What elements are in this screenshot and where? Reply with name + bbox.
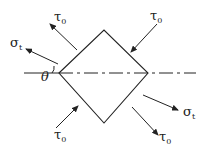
tau-bottom-right-arrow xyxy=(132,107,158,135)
sigma-right-label: σt xyxy=(183,104,196,121)
tau-bottom-left-arrow xyxy=(56,106,78,128)
theta-arc xyxy=(52,66,54,73)
sigma-left-arrow xyxy=(26,49,58,64)
tau-top-left-label: τ0 xyxy=(54,9,66,26)
stress-element-diagram: θ σt τ0 τ0 σt τ0 τ0 xyxy=(0,0,206,146)
tau-top-right-label: τ0 xyxy=(150,8,162,25)
tau-bottom-right-label: τ0 xyxy=(159,129,171,146)
stress-element-square xyxy=(59,30,148,123)
tau-top-right-arrow xyxy=(131,24,157,52)
sigma-left-label: σt xyxy=(10,35,23,52)
sigma-right-arrow xyxy=(143,95,178,110)
theta-label: θ xyxy=(41,69,49,84)
tau-bottom-left-label: τ0 xyxy=(54,127,66,144)
tau-top-left-arrow xyxy=(50,24,77,50)
